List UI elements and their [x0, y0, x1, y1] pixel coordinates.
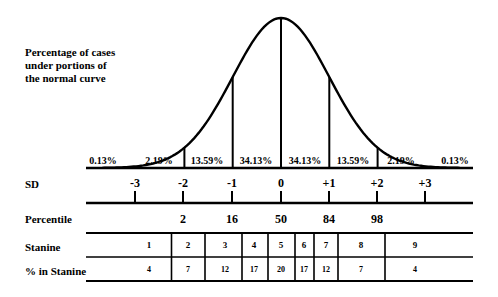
normal-curve-diagram: Percentage of cases under portions of th…: [0, 0, 498, 297]
stanine-cell: 6: [302, 240, 307, 250]
sd-tick-label: -1: [227, 176, 237, 190]
percentile-value: 50: [275, 212, 287, 226]
percentile-value: 98: [371, 212, 383, 226]
stanine-cell: 1: [147, 240, 152, 250]
title-line-3: the normal curve: [25, 72, 106, 84]
area-pct: 2.19%: [145, 155, 173, 166]
area-pct: 0.13%: [89, 155, 117, 166]
diagram-title: Percentage of cases under portions of th…: [25, 46, 116, 84]
sd-tick-label: -3: [130, 176, 140, 190]
pct-in-stanine-cell: 7: [359, 265, 363, 274]
stanine-cell: 3: [223, 240, 228, 250]
stanine-cell: 7: [324, 240, 329, 250]
sd-tick-label: 0: [278, 176, 284, 190]
area-pct: 0.13%: [441, 155, 469, 166]
sd-tick-label: +1: [323, 176, 336, 190]
title-line-1: Percentage of cases: [25, 46, 116, 58]
area-pct: 34.13%: [289, 155, 322, 166]
percentile-value: 84: [323, 212, 335, 226]
curve-dividers: [136, 18, 426, 168]
sd-tick-label: -2: [178, 176, 188, 190]
stanine-cell: 9: [413, 240, 418, 250]
pct-in-stanine-cell: 4: [147, 265, 151, 274]
area-pct: 2.19%: [387, 155, 415, 166]
stanine-cell: 8: [359, 240, 364, 250]
percentile-label: Percentile: [25, 213, 72, 225]
sd-tick-label: +2: [371, 176, 384, 190]
percentile-value: 16: [226, 212, 238, 226]
percentile-value: 2: [180, 212, 186, 226]
stanine-cell: 2: [186, 240, 191, 250]
sd-label: SD: [25, 178, 39, 190]
pct-in-stanine-label: % in Stanine: [25, 265, 86, 277]
area-pct: 13.59%: [337, 155, 370, 166]
pct-in-stanine-cell: 7: [186, 265, 190, 274]
sd-axis: [86, 191, 473, 203]
sd-tick-labels: -3 -2 -1 0 +1 +2 +3: [130, 176, 431, 190]
pct-in-stanine-cell: 17: [250, 265, 258, 274]
stanine-values: 1 2 3 4 5 6 7 8 9: [147, 240, 418, 250]
pct-in-stanine-values: 4 7 12 17 20 17 12 7 4: [147, 265, 417, 274]
percentile-values: 2 16 50 84 98: [180, 212, 383, 226]
area-pct: 13.59%: [191, 155, 224, 166]
stanine-label: Stanine: [25, 241, 61, 253]
sd-tick-label: +3: [419, 176, 432, 190]
area-pct: 34.13%: [240, 155, 273, 166]
pct-in-stanine-cell: 17: [300, 265, 308, 274]
pct-in-stanine-cell: 12: [322, 265, 330, 274]
stanine-cell: 4: [252, 240, 257, 250]
stanine-cell: 5: [279, 240, 284, 250]
area-percentages: 0.13% 2.19% 13.59% 34.13% 34.13% 13.59% …: [89, 155, 469, 166]
pct-in-stanine-cell: 12: [221, 265, 229, 274]
title-line-2: under portions of: [25, 59, 107, 71]
pct-in-stanine-cell: 20: [277, 265, 285, 274]
pct-in-stanine-cell: 4: [413, 265, 417, 274]
